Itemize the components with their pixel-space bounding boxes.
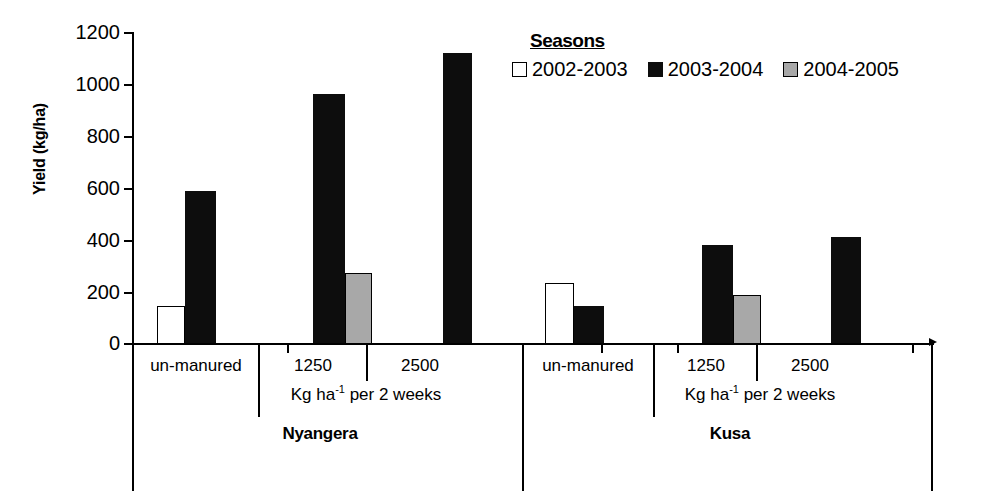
legend-label-2002-2003: 2002-2003 xyxy=(532,58,628,80)
bar-kusa-unmanured-2002-2003 xyxy=(545,283,574,344)
gray-square-icon xyxy=(783,62,798,77)
bar-nyangera-1250-2004-2005 xyxy=(345,273,372,345)
y-tick-label-wrap-600: 600 xyxy=(52,178,120,198)
x-rate-note-kusa-suffix: per 2 weeks xyxy=(739,385,835,404)
black-square-icon xyxy=(648,62,663,77)
x-label-kusa-unmanured: un-manured xyxy=(526,356,650,376)
x-tick-5 xyxy=(677,344,679,353)
bar-nyangera-1250-2003-2004 xyxy=(313,94,345,344)
x-site-label-nyangera: Nyangera xyxy=(180,424,460,444)
bar-kusa-2500-2003-2004 xyxy=(831,237,861,344)
x-rate-note-nyangera-prefix: Kg ha xyxy=(291,385,335,404)
x-rate-note-nyangera-suffix: per 2 weeks xyxy=(345,385,441,404)
bar-nyangera-unmanured-2002-2003 xyxy=(157,306,185,344)
x-label-nyangera-2500: 2500 xyxy=(370,356,470,376)
x-rate-note-nyangera-sup: -1 xyxy=(335,383,345,395)
y-tick-label-wrap-1000: 1000 xyxy=(52,74,120,94)
legend-label-2004-2005: 2004-2005 xyxy=(803,58,899,80)
x-label-kusa-1250: 1250 xyxy=(658,356,754,376)
cat-sep-kusa-unmanured-1250 xyxy=(653,345,655,417)
bar-nyangera-2500-2003-2004 xyxy=(443,53,472,344)
y-tick-label-wrap-200: 200 xyxy=(52,282,120,302)
y-tick-label-800: 800 xyxy=(62,126,120,146)
legend-title: Seasons xyxy=(530,30,919,52)
x-axis-line xyxy=(132,343,934,345)
y-tick-label-600: 600 xyxy=(62,178,120,198)
x-rate-note-kusa-prefix: Kg ha xyxy=(685,385,729,404)
y-axis-title: Yield (kg/ha) xyxy=(31,49,49,249)
bar-nyangera-unmanured-2003-2004 xyxy=(185,191,216,344)
x-tick-4 xyxy=(601,344,603,353)
x-rate-note-kusa: Kg ha-1 per 2 weeks xyxy=(656,385,864,405)
y-tick-label-0: 0 xyxy=(62,333,120,353)
y-tick-label-wrap-800: 800 xyxy=(52,126,120,146)
bar-kusa-unmanured-2003-2004 xyxy=(574,306,604,344)
cat-sep-kusa-1250-2500 xyxy=(756,345,758,381)
bar-chart-figure: Yield (kg/ha) 1200 1000 800 600 400 200 … xyxy=(0,0,984,499)
group-sep-right-kusa xyxy=(931,345,933,491)
y-tick-label-wrap-0: 0 xyxy=(52,333,120,353)
x-label-nyangera-unmanured: un-manured xyxy=(134,356,258,376)
y-tick-label-200: 200 xyxy=(62,282,120,302)
y-tick-label-400: 400 xyxy=(62,230,120,250)
cat-sep-nyangera-1250-2500 xyxy=(366,345,368,381)
x-site-label-kusa: Kusa xyxy=(590,424,870,444)
x-tick-1 xyxy=(287,344,289,353)
x-rate-note-kusa-sup: -1 xyxy=(729,383,739,395)
x-label-kusa-2500: 2500 xyxy=(760,356,860,376)
y-tick-label-1000: 1000 xyxy=(62,74,120,94)
bar-kusa-1250-2004-2005 xyxy=(733,295,761,344)
x-tick-7 xyxy=(912,344,914,353)
bar-kusa-1250-2003-2004 xyxy=(702,245,733,344)
legend: Seasons 2002-2003 2003-2004 2004-2005 xyxy=(512,30,919,80)
white-square-icon xyxy=(512,62,527,77)
y-tick-label-wrap-1200: 1200 xyxy=(52,22,120,42)
group-sep-nyangera-kusa xyxy=(522,345,524,491)
y-tick-label-wrap-400: 400 xyxy=(52,230,120,250)
y-tick-label-1200: 1200 xyxy=(62,22,120,42)
legend-label-2003-2004: 2003-2004 xyxy=(668,58,764,80)
x-label-nyangera-1250: 1250 xyxy=(262,356,364,376)
x-rate-note-nyangera: Kg ha-1 per 2 weeks xyxy=(262,385,470,405)
cat-sep-nyangera-unmanured-1250 xyxy=(258,345,260,417)
legend-row: 2002-2003 2003-2004 2004-2005 xyxy=(512,58,919,80)
